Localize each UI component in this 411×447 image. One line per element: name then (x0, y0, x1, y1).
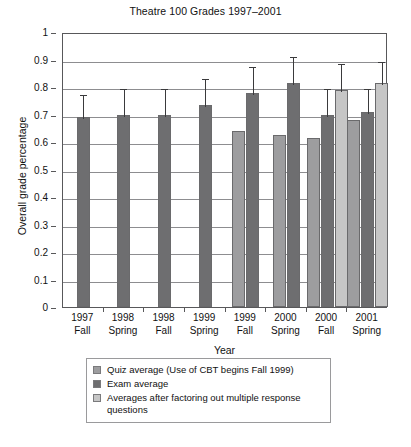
x-tick-label-line: 1998 (143, 311, 184, 324)
y-tick-label: 0.3 (34, 221, 48, 231)
y-tick-mark (51, 33, 56, 34)
x-tick-label-line: Spring (265, 324, 306, 337)
x-tick-mark (143, 308, 144, 312)
y-axis-labels: 10.90.80.70.60.50.40.30.20.10 (0, 33, 56, 308)
error-bar-line (327, 89, 328, 117)
x-tick-mark (225, 308, 226, 312)
x-tick-label-line: Fall (225, 324, 266, 337)
y-tick-label: 1 (42, 28, 48, 38)
y-tick-label: 0.4 (34, 193, 48, 203)
bar (273, 135, 286, 307)
x-tick-label: 2000Spring (265, 311, 306, 337)
bar (246, 93, 259, 308)
x-tick-label-line: Spring (103, 324, 144, 337)
error-bar-line (293, 57, 294, 85)
y-tick-mark (51, 226, 56, 227)
legend-item: Exam average (93, 378, 324, 390)
x-tick-label: 1999Fall (225, 311, 266, 337)
error-bar-line (165, 89, 166, 117)
bar (321, 115, 334, 308)
x-tick-mark (103, 308, 104, 312)
x-tick-label-line: 1999 (225, 311, 266, 324)
x-tick-label-line: 1999 (184, 311, 225, 324)
bar (335, 90, 348, 307)
x-tick-mark (265, 308, 266, 312)
error-bar-cap (249, 67, 256, 68)
y-tick-label: 0.7 (34, 111, 48, 121)
error-bar-cap (161, 89, 168, 90)
error-bar-line (368, 89, 369, 114)
error-bar-cap (80, 95, 87, 96)
legend-swatch-icon (93, 394, 101, 402)
y-tick-label: 0.2 (34, 248, 48, 258)
x-tick-mark (184, 308, 185, 312)
error-bar-cap (364, 89, 371, 90)
legend-swatch-icon (93, 380, 101, 388)
legend-label: Exam average (107, 378, 168, 390)
bar (232, 131, 245, 307)
y-tick-label: 0.8 (34, 83, 48, 93)
y-tick-mark (51, 171, 56, 172)
x-tick-label: 1999Spring (184, 311, 225, 337)
error-bar-line (253, 67, 254, 95)
bar (307, 138, 320, 307)
error-bar-cap (290, 57, 297, 58)
bar (158, 115, 171, 308)
bar (287, 83, 300, 307)
y-tick-label: 0.9 (34, 56, 48, 66)
legend-item: Quiz average (Use of CBT begins Fall 199… (93, 364, 324, 376)
error-bar-cap (378, 62, 385, 63)
y-tick-mark (51, 253, 56, 254)
legend-label: Quiz average (Use of CBT begins Fall 199… (107, 364, 294, 376)
x-tick-label-line: 2000 (306, 311, 347, 324)
legend-swatch-icon (93, 366, 101, 374)
x-tick-label-line: 1998 (103, 311, 144, 324)
x-tick-label: 2000Fall (306, 311, 347, 337)
bar (361, 112, 374, 307)
legend-item: Averages after factoring out multiple re… (93, 392, 324, 416)
bar (77, 117, 90, 307)
bar (117, 115, 130, 308)
plot-area (62, 33, 387, 308)
x-tick-label: 1998Fall (143, 311, 184, 337)
chart-legend: Quiz average (Use of CBT begins Fall 199… (86, 358, 331, 423)
x-tick-label-line: 1997 (62, 311, 103, 324)
x-tick-label-line: Fall (62, 324, 103, 337)
x-tick-label-line: Fall (306, 324, 347, 337)
bars-layer (63, 34, 386, 307)
x-tick-label-line: Fall (143, 324, 184, 337)
x-tick-label-line: 2000 (265, 311, 306, 324)
legend-label: Averages after factoring out multiple re… (107, 392, 324, 416)
y-tick-label: 0.6 (34, 138, 48, 148)
y-tick-label: 0.1 (34, 276, 48, 286)
x-tick-label-line: Spring (346, 324, 387, 337)
y-tick-label: 0.5 (34, 166, 48, 176)
x-tick-label-line: 2001 (346, 311, 387, 324)
y-tick-label: 0 (42, 303, 48, 313)
error-bar-cap (120, 89, 127, 90)
x-tick-label-line: Spring (184, 324, 225, 337)
error-bar-line (205, 79, 206, 107)
error-bar-cap (202, 79, 209, 80)
error-bar-line (341, 64, 342, 92)
y-tick-mark (51, 198, 56, 199)
x-tick-label: 1997Fall (62, 311, 103, 337)
chart-figure: Theatre 100 Grades 1997–2001 Overall gra… (0, 0, 411, 447)
y-tick-mark (51, 116, 56, 117)
bar (199, 105, 212, 307)
bar (347, 120, 360, 307)
y-tick-mark (51, 88, 56, 89)
y-tick-mark (51, 308, 56, 309)
error-bar-line (124, 89, 125, 117)
y-tick-mark (51, 143, 56, 144)
x-tick-mark (306, 308, 307, 312)
error-bar-line (382, 62, 383, 85)
y-tick-mark (51, 61, 56, 62)
x-axis-title: Year (62, 344, 387, 356)
chart-title: Theatre 100 Grades 1997–2001 (0, 5, 411, 17)
x-tick-label: 1998Spring (103, 311, 144, 337)
x-tick-mark (346, 308, 347, 312)
y-tick-mark (51, 281, 56, 282)
x-tick-label: 2001Spring (346, 311, 387, 337)
error-bar-line (83, 95, 84, 120)
